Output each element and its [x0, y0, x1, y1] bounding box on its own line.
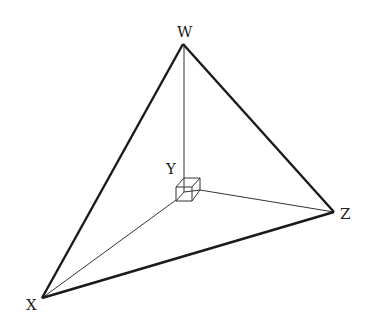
edge-x-z: [42, 212, 334, 298]
label-z: Z: [340, 205, 350, 223]
edge-w-x: [42, 44, 183, 298]
right-angle-cube-marker: [176, 178, 200, 201]
label-y: Y: [165, 160, 177, 178]
label-w: W: [177, 23, 193, 41]
tetrahedron-diagram: W Y Z X: [0, 0, 369, 335]
edge-w-z: [183, 44, 334, 212]
label-x: X: [26, 296, 37, 314]
edge-z-y: [200, 190, 334, 212]
edge-x-y: [42, 200, 176, 298]
